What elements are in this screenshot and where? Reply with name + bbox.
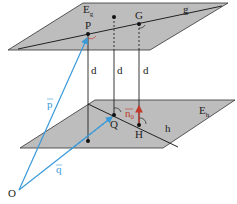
label-line-h: h	[165, 122, 171, 134]
point-P	[86, 32, 90, 36]
point-mid-upper	[112, 15, 116, 19]
upper-plane	[8, 3, 228, 50]
label-line-g: g	[183, 3, 189, 15]
label-O: O	[8, 187, 16, 199]
label-P: P	[85, 19, 91, 31]
point-H	[137, 123, 141, 127]
label-vector-p: p	[47, 98, 53, 110]
label-d2: d	[117, 64, 123, 76]
point-Q	[112, 113, 116, 117]
point-lower-left	[86, 139, 90, 143]
label-G: G	[135, 9, 143, 21]
label-d3: d	[143, 64, 149, 76]
label-d1: d	[91, 64, 97, 76]
label-Q: Q	[110, 118, 118, 130]
label-H: H	[135, 128, 143, 140]
point-G	[137, 22, 141, 26]
skew-lines-diagram: Eg Eh g h P G Q H O d d d p q n0	[0, 0, 237, 204]
